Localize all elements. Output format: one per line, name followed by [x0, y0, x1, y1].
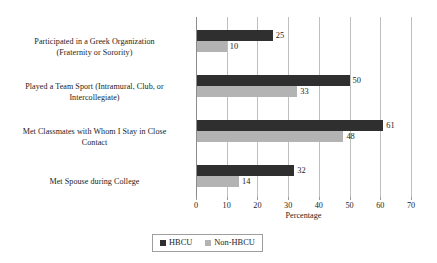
category-label-line: (Fraternity or Sorority)	[0, 48, 189, 59]
bar-hbcu	[197, 75, 350, 86]
category-label-greek-organization: Participated in a Greek Organization (Fr…	[0, 37, 189, 58]
bar-value-label: 48	[346, 131, 354, 142]
legend-swatch-icon	[160, 240, 166, 246]
chart-legend: HBCU Non-HBCU	[152, 234, 263, 252]
category-label-met-classmates: Met Classmates with Whom I Stay in Close…	[0, 127, 189, 148]
bar-non-hbcu	[197, 86, 297, 97]
bar-non-hbcu	[197, 131, 343, 142]
x-axis-title: Percentage	[196, 210, 411, 221]
legend-item-hbcu[interactable]: HBCU	[160, 238, 192, 248]
gridline	[380, 17, 381, 197]
category-label-line: Contact	[0, 138, 189, 149]
category-label-line: Intercollegiate)	[0, 93, 189, 104]
category-label-met-spouse: Met Spouse during College	[0, 177, 189, 188]
bar-value-label: 50	[353, 75, 361, 86]
legend-item-non-hbcu[interactable]: Non-HBCU	[205, 238, 254, 248]
legend-label: Non-HBCU	[214, 238, 254, 248]
gridline	[319, 17, 320, 197]
gridline	[411, 17, 412, 197]
bar-hbcu	[197, 30, 273, 41]
grouped-bar-chart: Participated in a Greek Organization (Fr…	[0, 0, 437, 263]
legend-label: HBCU	[169, 238, 192, 248]
bar-hbcu	[197, 165, 294, 176]
bar-value-label: 32	[297, 165, 305, 176]
category-label-line: Played a Team Sport (Intramural, Club, o…	[0, 82, 189, 93]
bar-value-label: 33	[300, 86, 308, 97]
category-label-line: Participated in a Greek Organization	[0, 37, 189, 48]
bar-non-hbcu	[197, 41, 227, 52]
legend-swatch-icon	[205, 240, 211, 246]
category-label-line: Met Spouse during College	[0, 177, 189, 188]
bar-hbcu	[197, 120, 383, 131]
bar-value-label: 10	[230, 41, 238, 52]
bar-value-label: 25	[276, 30, 284, 41]
category-axis-labels: Participated in a Greek Organization (Fr…	[0, 17, 193, 197]
bar-non-hbcu	[197, 176, 239, 187]
gridline	[350, 17, 351, 197]
plot-area: 2510503361483214	[196, 17, 411, 197]
bar-value-label: 14	[242, 176, 250, 187]
category-label-line: Met Classmates with Whom I Stay in Close	[0, 127, 189, 138]
bar-value-label: 61	[386, 120, 394, 131]
category-label-team-sport: Played a Team Sport (Intramural, Club, o…	[0, 82, 189, 103]
